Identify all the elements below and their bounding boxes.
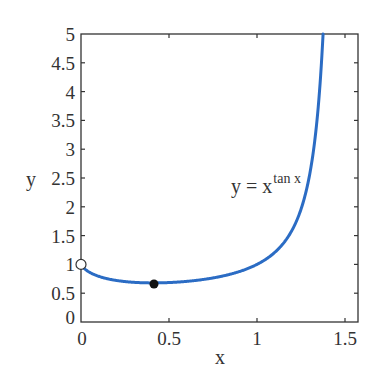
y-tick-label: 0 [66,307,76,328]
curve-annotation-base: y = x [231,175,272,198]
minimum-point-marker [150,280,159,289]
y-tick-label: 1 [66,254,76,275]
y-tick-label: 3 [66,139,76,160]
y-tick-label: 5 [66,24,76,45]
open-endpoint-marker [76,259,86,269]
x-axis-label: x [215,346,225,368]
curve-annotation-exponent: tan x [273,171,301,186]
curve-annotation: y = xtan x [231,171,301,198]
x-tick-label: 0.5 [157,328,181,349]
y-tick-label: 2.5 [51,168,75,189]
y-tick-label: 1.5 [51,226,75,247]
y-tick-label: 2 [66,197,76,218]
y-tick-label: 3.5 [51,110,75,131]
y-tick-label: 0.5 [51,283,75,304]
axis-ticks [81,34,358,322]
tick-labels: 00.511.500.511.522.533.544.55 [51,24,357,349]
y-tick-label: 4.5 [51,53,75,74]
x-tick-label: 1 [252,328,262,349]
y-axis-label: y [26,168,36,191]
x-tick-label: 0 [77,328,87,349]
plot-frame [81,34,358,322]
curve-x-pow-tan-x [81,34,323,283]
x-tick-label: 1.5 [333,328,357,349]
y-tick-label: 4 [66,82,76,103]
chart: 00.511.500.511.522.533.544.55 x y y = xt… [0,0,379,382]
